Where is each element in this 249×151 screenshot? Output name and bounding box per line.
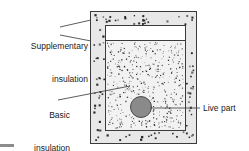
stipple-dot — [108, 20, 110, 22]
stipple-dot — [136, 57, 137, 58]
stipple-dot — [145, 65, 146, 66]
stipple-dot — [148, 65, 149, 66]
stipple-dot — [182, 75, 183, 76]
stipple-dot — [140, 47, 141, 48]
stipple-dot — [177, 110, 178, 111]
stipple-dot — [121, 121, 122, 122]
live-part-circle — [131, 97, 152, 118]
stipple-dot — [184, 23, 186, 25]
stipple-dot — [152, 76, 153, 77]
stipple-dot — [134, 43, 135, 44]
stipple-dot — [150, 68, 151, 69]
stipple-dot — [119, 139, 121, 141]
stipple-dot — [133, 118, 134, 119]
label-basic-insulation: Basic insulation — [8, 88, 70, 151]
stipple-dot — [170, 113, 171, 114]
stipple-dot — [142, 71, 143, 72]
stipple-dot — [163, 73, 164, 74]
stipple-dot — [96, 17, 97, 18]
stipple-dot — [125, 136, 127, 138]
stipple-dot — [140, 66, 141, 67]
stipple-dot — [118, 107, 119, 108]
stipple-dot — [160, 49, 161, 50]
stipple-dot — [155, 42, 156, 43]
stipple-dot — [158, 132, 160, 134]
stipple-dot — [159, 115, 160, 116]
stipple-dot — [166, 118, 167, 119]
stipple-dot — [94, 61, 95, 62]
stipple-dot — [153, 106, 154, 107]
stipple-dot — [115, 20, 117, 22]
stipple-dot — [118, 109, 119, 110]
stipple-dot — [168, 60, 169, 61]
stipple-dot — [119, 60, 120, 61]
stipple-dot — [192, 88, 194, 90]
stipple-dot — [182, 63, 183, 64]
stipple-dot — [107, 68, 108, 69]
stipple-dot — [132, 77, 133, 78]
stipple-dot — [155, 60, 156, 61]
stipple-dot — [152, 64, 153, 65]
stipple-dot — [131, 81, 132, 82]
stipple-dot — [153, 86, 154, 87]
stipple-dot — [129, 115, 130, 116]
stipple-dot — [133, 86, 134, 87]
stipple-dot — [170, 47, 171, 48]
stipple-dot — [140, 81, 141, 82]
stipple-dot — [149, 120, 150, 121]
stipple-dot — [157, 101, 158, 102]
stipple-dot — [133, 90, 134, 91]
stipple-dot — [180, 43, 181, 44]
label-supplementary-line1: Supplementary — [6, 41, 88, 52]
stipple-dot — [108, 110, 109, 111]
stipple-dot — [120, 123, 121, 124]
stipple-dot — [173, 121, 174, 122]
stipple-dot — [148, 136, 150, 138]
stipple-dot — [127, 97, 128, 98]
stipple-dot — [111, 44, 112, 45]
stipple-dot — [111, 119, 112, 120]
stipple-dot — [97, 129, 99, 131]
stipple-dot — [146, 71, 147, 72]
stipple-dot — [120, 104, 121, 105]
stipple-dot — [164, 90, 165, 91]
stipple-dot — [110, 72, 111, 73]
stipple-dot — [131, 76, 132, 77]
stipple-dot — [142, 91, 143, 92]
stipple-dot — [99, 104, 101, 106]
stipple-dot — [135, 125, 136, 126]
stipple-dot — [165, 101, 166, 102]
stipple-dot — [118, 64, 119, 65]
stipple-dot — [117, 87, 118, 88]
stipple-dot — [120, 124, 121, 125]
stipple-dot — [128, 87, 129, 88]
stipple-dot — [109, 114, 110, 115]
stipple-dot — [166, 20, 168, 22]
stipple-dot — [141, 136, 143, 138]
stipple-dot — [142, 15, 144, 17]
stipple-dot — [111, 72, 112, 73]
stipple-dot — [107, 84, 108, 85]
stipple-dot — [163, 101, 164, 102]
stipple-dot — [121, 62, 122, 63]
stipple-dot — [125, 67, 126, 68]
stipple-dot — [111, 106, 112, 107]
stipple-dot — [186, 125, 187, 126]
stipple-dot — [114, 93, 115, 94]
stipple-dot — [110, 61, 111, 62]
stipple-dot — [114, 109, 115, 110]
stipple-dot — [108, 112, 109, 113]
stipple-dot — [99, 43, 101, 45]
stipple-dot — [128, 90, 129, 91]
stipple-dot — [189, 92, 191, 94]
stipple-dot — [190, 87, 192, 89]
stipple-dot — [127, 70, 128, 71]
stipple-dot — [134, 46, 135, 47]
stipple-dot — [156, 76, 157, 77]
stipple-dot — [168, 111, 169, 112]
stipple-dot — [132, 121, 133, 122]
stipple-dot — [121, 126, 122, 127]
stipple-dot — [121, 47, 122, 48]
stipple-dot — [113, 82, 114, 83]
stipple-dot — [132, 69, 133, 70]
